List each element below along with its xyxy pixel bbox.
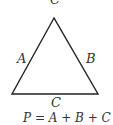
side-label-c: C (51, 95, 61, 110)
triangle-diagram: C A B C P = A + B + C (0, 0, 113, 125)
top-label: C (50, 0, 60, 7)
perimeter-formula: P = A + B + C (22, 111, 111, 125)
side-label-a: A (16, 51, 26, 66)
side-label-b: B (85, 51, 96, 66)
